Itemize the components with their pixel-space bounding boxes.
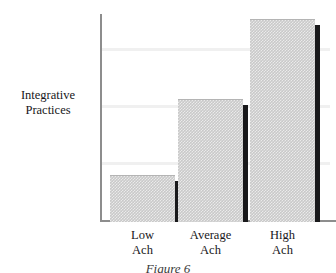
bar-chart: Integrative Practices 51015 LowAchAverag… <box>0 0 336 273</box>
y-axis-spine <box>100 14 102 222</box>
x-label-line-2: Ach <box>233 243 332 258</box>
x-label-line-1: High <box>233 228 332 243</box>
bar-high-ach <box>250 20 315 222</box>
bar-low-ach <box>110 176 175 222</box>
figure-caption: Figure 6 <box>0 261 336 273</box>
x-label-high-ach: HighAch <box>233 228 332 258</box>
bar-body <box>110 175 175 222</box>
y-axis-title-line-1: Integrative <box>6 88 90 103</box>
bar-shadow <box>315 25 320 222</box>
plot-area: 51015 <box>100 12 324 222</box>
bar-body <box>250 19 315 222</box>
bar-body <box>178 99 243 222</box>
y-axis-title-line-2: Practices <box>6 103 90 118</box>
bar-average-ach <box>178 100 243 222</box>
y-axis-title: Integrative Practices <box>6 88 90 118</box>
bar-shadow <box>243 105 248 222</box>
